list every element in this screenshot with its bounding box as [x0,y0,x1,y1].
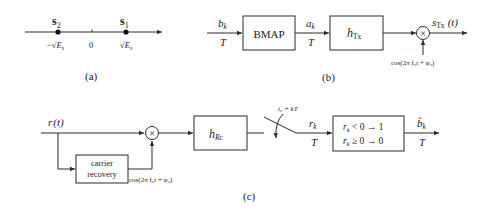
point-s1 [123,29,128,34]
tx-mixer-symbol: × [420,28,426,39]
label-rk: rk [309,117,317,131]
rx-carrier-label: cos(2π f₀t + φ₀) [129,176,173,184]
label-bk-hat: b̂k [417,117,427,131]
label-rk-rate: T [311,136,318,148]
label-s2: s2 [52,14,61,30]
label-ak: ak [306,17,316,31]
carrier-recovery-line1: carrier [91,158,113,168]
caption-b: (b) [322,71,335,84]
diagram-canvas: s2 s1 −√Es 0 √Es (a) bk T BMAP ak T hTx … [0,0,485,207]
bmap-label: BMAP [253,28,284,40]
sampler-switch-arm [264,117,296,133]
tx-carrier-label: cos(2π f₀t + φ₀) [391,59,435,67]
label-s1: s1 [120,14,129,30]
panel-b-transmitter: bk T BMAP ak T hTx × cos(2π f₀t + φ₀) sT… [207,16,467,84]
point-s2 [55,29,60,34]
tick-neg-sqrt-es: −√Es [47,40,65,51]
label-stx: sTx(t) [432,16,458,30]
sampler-time-label: t₀ + kT [278,105,299,113]
caption-a: (a) [85,70,98,83]
label-bk-hat-rate: T [419,136,426,148]
label-ak-rate: T [308,36,315,48]
caption-c: (c) [243,190,256,203]
rx-mixer-symbol: × [149,128,155,139]
carrier-to-mixer-arrow [128,141,152,169]
tick-pos-sqrt-es: √Es [120,40,133,51]
panel-a-constellation: s2 s1 −√Es 0 √Es (a) [25,14,162,83]
decision-rule-2: rk ≥ 0 → 0 [343,136,384,147]
carrier-recovery-line2: recovery [87,169,117,179]
decision-rule-1: rk < 0 → 1 [343,122,384,133]
branch-to-carrier-recovery [58,133,75,169]
label-rt: r(t) [48,116,64,129]
label-bk: bk [218,17,228,31]
tick-zero: 0 [89,40,93,50]
label-bk-rate: T [220,36,227,48]
panel-c-receiver: r(t) carrier recovery cos(2π f₀t + φ₀) ×… [41,105,439,203]
